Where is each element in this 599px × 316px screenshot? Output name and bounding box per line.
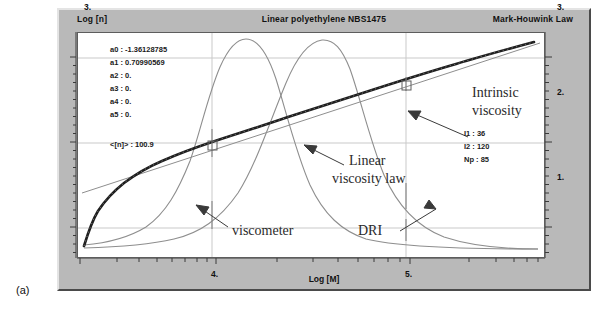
annotation-dri: DRI <box>358 223 382 239</box>
annotation-viscometer: viscometer <box>232 223 293 239</box>
param-a1-name: a1 <box>110 58 118 67</box>
param-a1: a1 : 0.70990569 <box>110 58 165 67</box>
limit-i1: I1 : 36 <box>464 129 485 138</box>
chart-method-label: Mark-Houwink Law <box>493 14 573 24</box>
plot-area[interactable]: a0 : -1.36128785 a1 : 0.70990569 a2 : 0.… <box>77 32 545 258</box>
param-a2: a2 : 0. <box>110 71 131 80</box>
limit-i2-name: I2 <box>464 142 470 151</box>
annotation-linear-viscosity-line2: viscosity law <box>332 171 406 187</box>
y-tick-label-right-1: 1. <box>557 172 564 182</box>
annotation-intrinsic-viscosity-line1: Intrinsic <box>472 85 519 101</box>
limit-np-name: Np <box>464 155 474 164</box>
mean-intrinsic-viscosity: <[n]> : 100.9 <box>110 140 154 149</box>
param-a5: a5 : 0. <box>110 110 131 119</box>
param-a0-name: a0 <box>110 45 118 54</box>
limit-i2: I2 : 120 <box>464 142 489 151</box>
param-a5-value: 0. <box>125 110 131 119</box>
chart-header: Log [n] Linear polyethylene NBS1475 Mark… <box>59 10 589 32</box>
limit-np: Np : 85 <box>464 155 489 164</box>
figure-panel: Log [n] Linear polyethylene NBS1475 Mark… <box>57 8 591 291</box>
y-axis-title: Log [n] <box>77 14 107 24</box>
figure-caption: (a) <box>16 284 29 296</box>
param-a5-name: a5 <box>110 110 118 119</box>
y-axis-ruler-right <box>545 32 555 258</box>
param-a2-value: 0. <box>125 71 131 80</box>
y-tick-label-3: 3. <box>84 2 91 12</box>
param-a4-name: a4 <box>110 97 118 106</box>
limit-i1-name: I1 <box>464 129 470 138</box>
param-a3-value: 0. <box>125 84 131 93</box>
limit-i2-value: 120 <box>477 142 490 151</box>
param-a4: a4 : 0. <box>110 97 131 106</box>
param-a3-name: a3 <box>110 84 118 93</box>
annotation-intrinsic-viscosity-line2: viscosity <box>472 103 522 119</box>
x-axis-ruler <box>77 258 545 268</box>
y-tick-label-right-2: 2. <box>557 87 564 97</box>
y-axis-ruler-left <box>67 32 77 258</box>
annotation-linear-viscosity-line1: Linear <box>349 153 386 169</box>
param-a1-value: 0.70990569 <box>125 58 165 67</box>
param-a4-value: 0. <box>125 97 131 106</box>
x-tick-label-5: 5. <box>405 269 412 279</box>
param-a0: a0 : -1.36128785 <box>110 45 167 54</box>
x-tick-label-4: 4. <box>211 269 218 279</box>
param-a2-name: a2 <box>110 71 118 80</box>
param-a0-value: -1.36128785 <box>125 45 167 54</box>
y-tick-label-right-3: 3. <box>557 2 564 12</box>
x-axis-title: Log [M] <box>309 274 340 284</box>
limit-i1-value: 36 <box>477 129 485 138</box>
limit-np-value: 85 <box>481 155 489 164</box>
chart-title: Linear polyethylene NBS1475 <box>262 14 386 24</box>
param-a3: a3 : 0. <box>110 84 131 93</box>
